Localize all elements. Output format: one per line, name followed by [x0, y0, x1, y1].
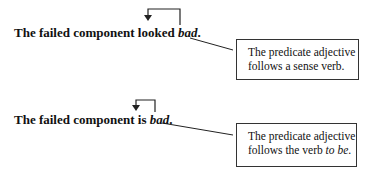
- arrow-head-down-icon: [144, 15, 152, 21]
- sentence-period: .: [197, 25, 200, 40]
- callout-italic-text: to be: [326, 144, 349, 156]
- callout-line-1: The predicate adjective: [248, 129, 356, 143]
- example-sentence-2: The failed component is bad.: [14, 113, 173, 126]
- callout-box-1: The predicate adjective follows a sense …: [236, 39, 359, 80]
- callout-line-1: The predicate adjective: [248, 45, 358, 59]
- arrow-head-down-icon: [132, 105, 140, 111]
- callout-text: follows the verb: [248, 144, 326, 156]
- sentence-period: .: [169, 112, 172, 127]
- callout-text-end: .: [348, 144, 351, 156]
- sentence-text: The failed component looked: [14, 25, 178, 40]
- callout-box-2: The predicate adjective follows the verb…: [236, 123, 357, 167]
- callout-text: follows a sense verb.: [248, 60, 344, 72]
- predicate-adjective: bad: [178, 25, 198, 40]
- sentence-text: The failed component is: [14, 112, 150, 127]
- example-sentence-1: The failed component looked bad.: [14, 26, 201, 39]
- predicate-adjective: bad: [150, 112, 170, 127]
- leader-line-2: [162, 123, 233, 135]
- callout-line-2: follows the verb to be.: [248, 143, 356, 157]
- callout-line-2: follows a sense verb.: [248, 59, 358, 73]
- arrow-bracket-1: [148, 9, 180, 25]
